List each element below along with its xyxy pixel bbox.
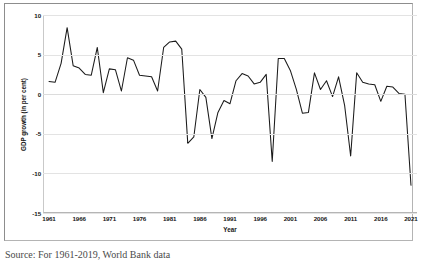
y-tick-label: -5 — [13, 130, 41, 137]
figure-frame: GDP growth (in per cent) 1050-5-10-15 19… — [4, 3, 413, 241]
y-tick-label: 10 — [13, 12, 41, 19]
gridline-y-5 — [43, 55, 417, 56]
x-tick-label: 2016 — [364, 215, 398, 223]
x-tick-label: 2001 — [273, 215, 307, 223]
y-tick-label: 0 — [13, 91, 41, 98]
source-caption: Source: For 1961-2019, World Bank data — [5, 249, 415, 260]
x-axis-title: Year — [43, 226, 417, 233]
gridline-y-0 — [43, 94, 417, 95]
gridline-y--5 — [43, 134, 417, 135]
x-tick-label: 1981 — [153, 215, 187, 223]
x-tick-label: 1986 — [183, 215, 217, 223]
x-tick-label: 1976 — [123, 215, 157, 223]
x-tick-label: 1961 — [32, 215, 66, 223]
x-tick-label: 1966 — [62, 215, 96, 223]
gridline-y--15 — [43, 213, 417, 214]
x-tick-label: 2011 — [334, 215, 368, 223]
x-tick-label: 1991 — [213, 215, 247, 223]
x-tick-label: 2006 — [303, 215, 337, 223]
gridline-y--10 — [43, 173, 417, 174]
x-tick-label: 2021 — [394, 215, 423, 223]
gdp-growth-line — [49, 28, 411, 186]
y-tick-label: -10 — [13, 170, 41, 177]
x-tick-label: 1971 — [92, 215, 126, 223]
x-tick-label: 1996 — [243, 215, 277, 223]
y-tick-label: 5 — [13, 51, 41, 58]
y-axis-title: GDP growth (in per cent) — [20, 45, 27, 185]
series-line-chart — [43, 15, 417, 213]
gridline-y-10 — [43, 15, 417, 16]
plot-area — [43, 15, 417, 213]
gdp-growth-figure: GDP growth (in per cent) 1050-5-10-15 19… — [0, 0, 423, 260]
y-axis-ticks: GDP growth (in per cent) 1050-5-10-15 — [9, 15, 41, 213]
